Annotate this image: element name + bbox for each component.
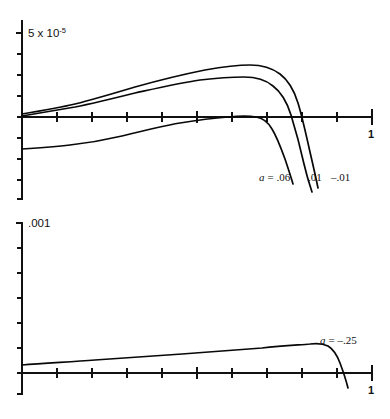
- curve-point-06: [22, 116, 293, 184]
- top-curve-label-01: .01: [308, 171, 322, 183]
- top-curve-label-a-06: a= .06: [259, 171, 291, 183]
- bottom-x-axis-end-label: 1: [368, 384, 374, 396]
- bottom-y-ticks: [16, 223, 22, 394]
- curve-minus-point-01: [22, 65, 318, 188]
- curve-minus-point-25: [22, 344, 348, 388]
- top-x-axis-end-label: 1: [368, 128, 374, 140]
- top-y-ticks: [16, 33, 22, 199]
- figure-container: 5 x 10-5 1 a= .06 .01 –.01: [0, 0, 390, 419]
- top-curve-label-minus-01: –.01: [330, 171, 350, 183]
- bottom-y-axis-label: .001: [28, 217, 50, 229]
- top-y-axis-label: 5 x 10-5: [28, 26, 66, 39]
- chart-panel-top: 5 x 10-5 1 a= .06 .01 –.01: [0, 0, 390, 210]
- chart-panel-bottom: .001 1 a= –.25: [0, 210, 390, 419]
